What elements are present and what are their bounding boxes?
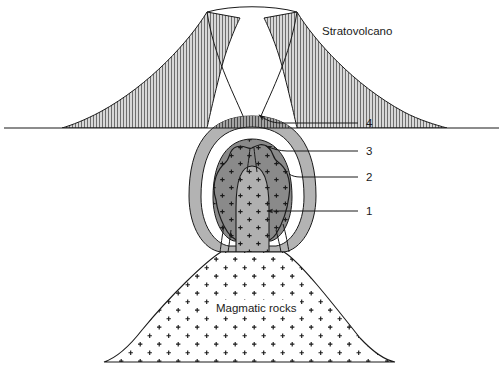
stratovolcano-label: Stratovolcano — [322, 25, 392, 37]
diagram-canvas: Stratovolcano Magmatic rocks 4 3 2 1 — [0, 0, 503, 367]
callout-number-3: 3 — [366, 145, 372, 157]
crater-rim-line — [207, 7, 297, 12]
callout-number-1: 1 — [366, 205, 372, 217]
volcano-cross-section-figure: Stratovolcano Magmatic rocks 4 3 2 1 — [0, 0, 503, 367]
chamber-inner-core — [236, 166, 269, 252]
callout-number-4: 4 — [366, 117, 373, 129]
cone-left-flank — [62, 12, 240, 128]
magmatic-rocks-label: Magmatic rocks — [216, 302, 297, 314]
callout-number-2: 2 — [366, 171, 372, 183]
